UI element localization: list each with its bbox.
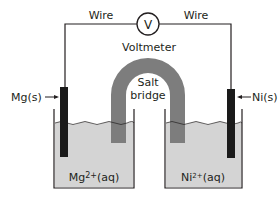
right-solution-label: Ni2+(aq) (181, 171, 225, 184)
salt-bridge-label-1: Salt (137, 76, 159, 89)
ni-electrode (227, 89, 235, 158)
galvanic-cell-diagram: V Voltmeter Wire Wire Mg(s) Ni(s) Salt b… (0, 0, 279, 201)
mg-electrode-label: Mg(s) (11, 91, 42, 104)
wire-label-right: Wire (184, 9, 209, 22)
mg-arrowhead-icon (54, 95, 59, 99)
salt-bridge-label-2: bridge (130, 89, 166, 102)
wire-label-left: Wire (89, 9, 114, 22)
mg-electrode (60, 87, 68, 157)
voltmeter-label: Voltmeter (122, 41, 176, 54)
ni-arrowhead-icon (237, 95, 242, 99)
ni-electrode-label: Ni(s) (252, 91, 278, 104)
voltmeter-symbol: V (144, 18, 153, 32)
